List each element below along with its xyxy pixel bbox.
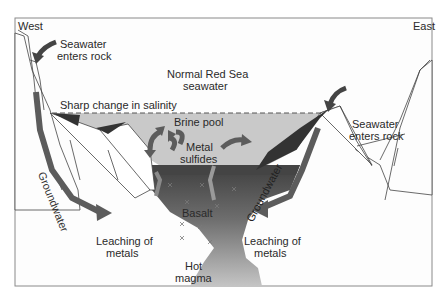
label-hot-magma-1: Hot — [185, 260, 202, 272]
label-seawater-west-1: Seawater — [60, 38, 106, 50]
label-seawater-east-2: enters rock — [349, 130, 403, 142]
label-salinity-change: Sharp change in salinity — [60, 99, 177, 111]
label-leaching-east-2: metals — [254, 247, 286, 259]
label-hot-magma-2: magma — [175, 272, 212, 284]
label-seawater-east-1: Seawater — [352, 118, 398, 130]
label-normal-seawater-2: seawater — [183, 80, 228, 92]
label-basalt: Basalt — [182, 207, 213, 219]
label-metal-sulfides-1: Metal — [186, 141, 213, 153]
label-brine-pool: Brine pool — [174, 116, 224, 128]
label-seawater-west-2: enters rock — [57, 50, 111, 62]
label-metal-sulfides-2: sulfides — [180, 153, 217, 165]
label-leaching-west-1: Leaching of — [96, 235, 153, 247]
label-leaching-west-2: metals — [106, 247, 138, 259]
label-leaching-east-1: Leaching of — [244, 235, 301, 247]
label-east: East — [413, 20, 435, 32]
label-west: West — [18, 20, 43, 32]
label-normal-seawater-1: Normal Red Sea — [167, 68, 248, 80]
